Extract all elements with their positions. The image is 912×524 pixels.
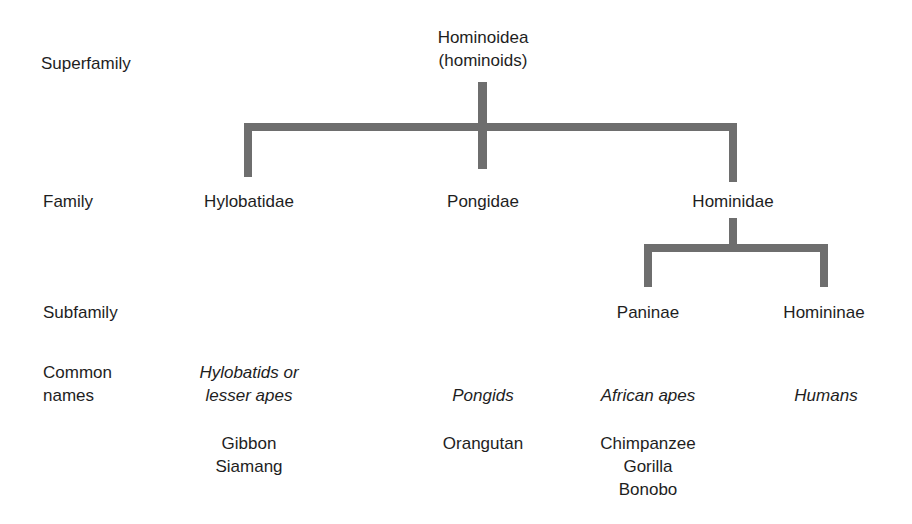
common-name-humans: Humans	[794, 384, 857, 407]
species-siamang: Siamang	[215, 455, 282, 478]
homininae-drop-line	[820, 244, 828, 287]
rank-label-common-names-2: names	[43, 384, 94, 407]
species-chimpanzee: Chimpanzee	[600, 432, 695, 455]
hominidae-drop-line	[729, 123, 737, 182]
subfamily-branch-line	[644, 244, 828, 252]
family-pongidae: Pongidae	[447, 190, 519, 213]
superfamily-name: Hominoidea	[438, 26, 529, 49]
rank-label-superfamily: Superfamily	[41, 52, 131, 75]
family-hominidae: Hominidae	[692, 190, 773, 213]
common-name-hylobatids-2: lesser apes	[206, 384, 293, 407]
species-bonobo: Bonobo	[619, 478, 678, 501]
subfamily-homininae: Homininae	[783, 301, 864, 324]
rank-label-subfamily: Subfamily	[43, 301, 118, 324]
common-name-pongids: Pongids	[452, 384, 513, 407]
rank-label-family: Family	[43, 190, 93, 213]
rank-label-common-names-1: Common	[43, 361, 112, 384]
species-gibbon: Gibbon	[222, 432, 277, 455]
subfamily-paninae: Paninae	[617, 301, 679, 324]
common-name-hylobatids-1: Hylobatids or	[199, 361, 298, 384]
species-gorilla: Gorilla	[623, 455, 672, 478]
superfamily-common-name: (hominoids)	[439, 49, 528, 72]
hylobatidae-drop-line	[244, 123, 252, 177]
family-branch-line	[244, 123, 737, 131]
species-orangutan: Orangutan	[443, 432, 523, 455]
family-hylobatidae: Hylobatidae	[204, 190, 294, 213]
common-name-african-apes: African apes	[601, 384, 696, 407]
paninae-drop-line	[644, 244, 652, 287]
